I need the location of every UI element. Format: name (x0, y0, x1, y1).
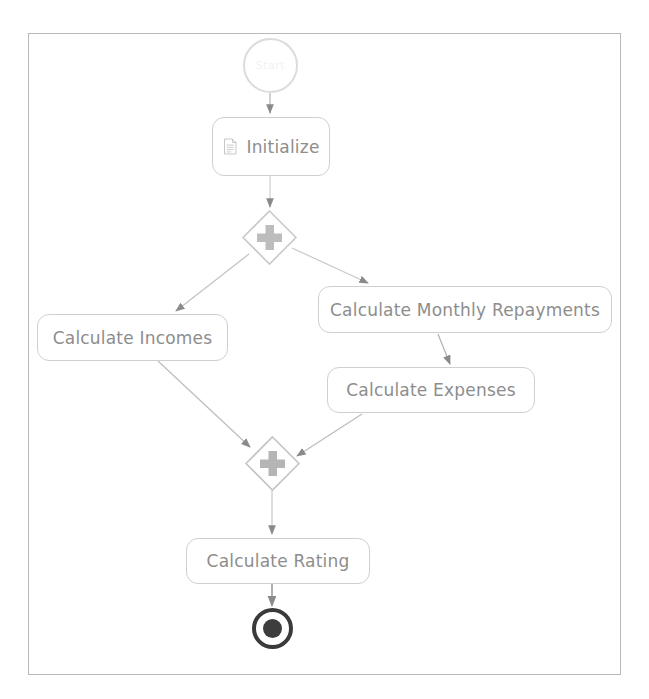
parallel-gateway-fork[interactable] (240, 208, 299, 267)
task-calculate-expenses-label: Calculate Expenses (346, 380, 515, 400)
task-calculate-expenses[interactable]: Calculate Expenses (327, 367, 535, 413)
task-calculate-incomes-label: Calculate Incomes (53, 328, 213, 348)
task-calculate-monthly-repayments-label: Calculate Monthly Repayments (330, 300, 600, 320)
task-initialize[interactable]: Initialize (212, 117, 330, 176)
start-event-label: Start (256, 59, 285, 72)
diagram-canvas: Start Initialize Calculate Incomes (0, 0, 649, 699)
end-event[interactable] (252, 608, 293, 649)
task-calculate-rating[interactable]: Calculate Rating (186, 538, 370, 584)
task-calculate-rating-label: Calculate Rating (207, 551, 350, 571)
task-calculate-monthly-repayments[interactable]: Calculate Monthly Repayments (318, 286, 612, 333)
end-event-dot (263, 619, 283, 639)
script-document-icon (222, 138, 238, 156)
parallel-gateway-join[interactable] (243, 434, 302, 493)
start-event[interactable]: Start (243, 38, 298, 93)
task-calculate-incomes[interactable]: Calculate Incomes (37, 314, 228, 361)
task-initialize-label: Initialize (246, 137, 319, 157)
